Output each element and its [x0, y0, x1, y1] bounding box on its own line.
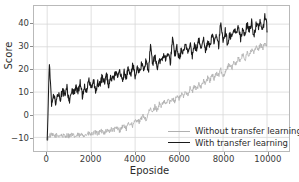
x-tick-mark [91, 152, 92, 155]
x-tick-mark [179, 152, 180, 155]
legend: Without transfer learning With transfer … [168, 127, 299, 147]
x-tick-mark [135, 152, 136, 155]
x-axis-label: Eposide [0, 165, 299, 176]
x-tick-mark [268, 152, 269, 155]
y-tick-label: 40 [0, 19, 29, 28]
y-tick-label: 30 [0, 42, 29, 51]
y-tick-mark [30, 69, 33, 70]
y-tick-mark [30, 92, 33, 93]
y-tick-label: 0 [0, 111, 29, 120]
figure: Score −100102030400200040006000800010000… [0, 0, 299, 182]
legend-label-without-transfer: Without transfer learning [195, 127, 299, 136]
legend-label-with-transfer: With transfer learning [195, 139, 288, 148]
y-tick-mark [30, 23, 33, 24]
y-tick-mark [30, 115, 33, 116]
legend-line-sample-with-transfer [168, 139, 190, 146]
y-axis-label: Score [3, 25, 14, 87]
y-tick-mark [30, 138, 33, 139]
y-tick-label: 10 [0, 88, 29, 97]
x-tick-mark [46, 152, 47, 155]
legend-item-without-transfer[interactable]: Without transfer learning [168, 127, 299, 136]
y-tick-label: 20 [0, 65, 29, 74]
y-tick-label: −10 [0, 134, 29, 143]
legend-line-sample-without-transfer [168, 128, 190, 135]
x-tick-label: 10000 [238, 155, 298, 164]
y-tick-mark [30, 46, 33, 47]
x-tick-mark [224, 152, 225, 155]
legend-item-with-transfer[interactable]: With transfer learning [168, 139, 299, 148]
